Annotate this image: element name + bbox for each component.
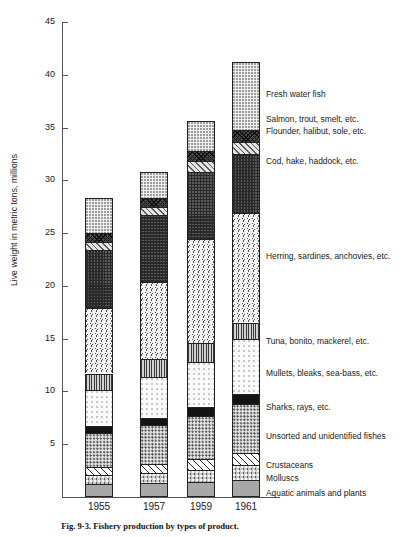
legend-label: Aquatic animals and plants bbox=[266, 489, 366, 497]
y-tick-mark bbox=[62, 444, 68, 445]
bar-segment bbox=[140, 207, 168, 215]
bar-segment bbox=[140, 418, 168, 425]
stacked-bar-1961 bbox=[232, 0, 260, 497]
bar-segment bbox=[85, 467, 113, 474]
y-tick-label: 30 bbox=[0, 175, 55, 184]
y-tick-mark bbox=[62, 22, 68, 23]
legend-label: Cod, hake, haddock, etc. bbox=[266, 157, 359, 165]
bar-segment bbox=[232, 154, 260, 213]
bar-segment bbox=[232, 213, 260, 323]
bar-segment bbox=[232, 130, 260, 143]
stacked-bar-1959 bbox=[187, 0, 215, 497]
legend-label: Salmon, trout, smelt, etc. bbox=[266, 115, 359, 123]
bar-segment bbox=[232, 404, 260, 453]
stacked-bar-1957 bbox=[140, 0, 168, 497]
bar-segment bbox=[187, 470, 215, 483]
y-tick-label: 35 bbox=[0, 123, 55, 132]
figure-caption: Fig. 9-3. Fishery production by types of… bbox=[0, 521, 300, 531]
y-tick-label: 10 bbox=[0, 386, 55, 395]
bar-segment bbox=[187, 416, 215, 459]
y-axis-title: Live weight in metric tons, millions bbox=[9, 120, 19, 320]
bar-segment bbox=[140, 198, 168, 206]
bar-segment bbox=[140, 282, 168, 359]
x-axis-label-1961: 1961 bbox=[216, 501, 276, 512]
legend-label: Tuna, bonito, mackerel, etc. bbox=[266, 337, 369, 345]
y-tick-label: 40 bbox=[0, 70, 55, 79]
bar-segment bbox=[85, 233, 113, 241]
y-axis-line bbox=[62, 22, 63, 498]
bar-segment bbox=[85, 433, 113, 468]
y-tick-mark bbox=[62, 180, 68, 181]
bar-segment bbox=[187, 407, 215, 415]
x-axis-line bbox=[62, 497, 280, 498]
bar-segment bbox=[232, 453, 260, 466]
y-tick-mark bbox=[62, 286, 68, 287]
bar-segment bbox=[85, 250, 113, 308]
legend-label: Unsorted and unidentified fishes bbox=[266, 432, 386, 440]
legend-label: Flounder, halibut, sole, etc. bbox=[266, 127, 366, 135]
bar-segment bbox=[85, 475, 113, 485]
bar-segment bbox=[85, 484, 113, 497]
bar-segment bbox=[140, 473, 168, 484]
y-tick-mark bbox=[62, 391, 68, 392]
stacked-bar-1955 bbox=[85, 0, 113, 497]
bar-segment bbox=[85, 374, 113, 391]
bar-segment bbox=[187, 121, 215, 151]
figure-container: Live weight in metric tons, millions 454… bbox=[0, 0, 418, 537]
legend-label: Sharks, rays, etc. bbox=[266, 403, 331, 411]
legend-label: Fresh water fish bbox=[266, 90, 326, 98]
bar-segment bbox=[187, 151, 215, 162]
y-tick-mark bbox=[62, 75, 68, 76]
bar-segment bbox=[232, 339, 260, 394]
bar-segment bbox=[140, 483, 168, 497]
x-axis-label-1955: 1955 bbox=[69, 501, 129, 512]
bar-segment bbox=[187, 459, 215, 470]
y-tick-label: 15 bbox=[0, 334, 55, 343]
bar-segment bbox=[85, 390, 113, 426]
bar-segment bbox=[232, 394, 260, 405]
bar-segment bbox=[85, 426, 113, 432]
y-tick-mark bbox=[62, 233, 68, 234]
bar-segment bbox=[140, 425, 168, 464]
bar-segment bbox=[140, 215, 168, 282]
bar-segment bbox=[140, 464, 168, 472]
y-tick-label: 25 bbox=[0, 228, 55, 237]
bar-segment bbox=[140, 359, 168, 377]
bar-segment bbox=[187, 482, 215, 497]
legend-label: Crustaceans bbox=[266, 461, 313, 469]
legend-label: Mullets, bleaks, sea-bass, etc. bbox=[266, 369, 378, 377]
bar-segment bbox=[187, 239, 215, 342]
y-tick-mark bbox=[62, 128, 68, 129]
bar-segment bbox=[232, 142, 260, 154]
bar-segment bbox=[232, 465, 260, 480]
y-tick-mark bbox=[62, 339, 68, 340]
y-tick-label: 45 bbox=[0, 17, 55, 26]
bar-segment bbox=[232, 323, 260, 339]
bar-segment bbox=[140, 172, 168, 198]
y-tick-label: 20 bbox=[0, 281, 55, 290]
bar-segment bbox=[187, 161, 215, 172]
bar-segment bbox=[140, 377, 168, 418]
bar-segment bbox=[187, 343, 215, 362]
bar-segment bbox=[187, 172, 215, 240]
y-tick-label: 5 bbox=[0, 439, 55, 448]
bar-segment bbox=[232, 480, 260, 497]
legend-label: Herring, sardines, anchovies, etc. bbox=[266, 252, 390, 260]
bar-segment bbox=[85, 198, 113, 233]
bar-segment bbox=[187, 362, 215, 407]
bar-segment bbox=[85, 242, 113, 250]
bar-segment bbox=[232, 62, 260, 130]
legend-label: Molluscs bbox=[266, 474, 299, 482]
bar-segment bbox=[85, 308, 113, 373]
